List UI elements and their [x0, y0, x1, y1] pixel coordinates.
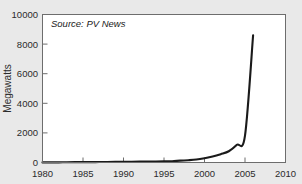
- chart-figure: 10000 8000 6000 4000 2000 0 1980 1985 19…: [0, 0, 302, 184]
- y-tick-label-4000: 4000: [17, 98, 38, 109]
- y-tick-label-0: 0: [33, 157, 38, 168]
- y-tick-label-6000: 6000: [17, 68, 38, 79]
- x-tick-label-2010: 2010: [275, 168, 296, 179]
- x-tick-label-2000: 2000: [194, 168, 215, 179]
- x-tick-label-2005: 2005: [234, 168, 255, 179]
- source-note: Source: PV News: [51, 18, 126, 29]
- y-axis-title: Megawatts: [2, 64, 13, 112]
- chart-canvas: 10000 8000 6000 4000 2000 0 1980 1985 19…: [0, 0, 302, 184]
- y-tick-label-8000: 8000: [17, 39, 38, 50]
- y-tick-label-2000: 2000: [17, 127, 38, 138]
- x-tick-label-1990: 1990: [113, 168, 134, 179]
- x-tick-label-1985: 1985: [72, 168, 93, 179]
- y-tick-label-10000: 10000: [12, 9, 38, 20]
- x-tick-label-1980: 1980: [32, 168, 53, 179]
- x-tick-label-1995: 1995: [153, 168, 174, 179]
